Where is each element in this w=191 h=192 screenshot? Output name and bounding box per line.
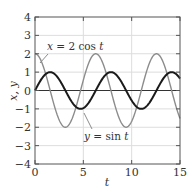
annotation-text: = 2 cos — [53, 40, 99, 52]
x-tick-label: 0 — [32, 166, 39, 179]
y-tick-label: −2 — [15, 121, 31, 134]
y-tick-label: 0 — [24, 85, 31, 98]
chart: 43210−1−2−3−4 051015 t x, y x = 2 cos t … — [0, 0, 191, 192]
y-tick-label: −3 — [15, 140, 31, 153]
leader-line — [84, 113, 92, 129]
svg-text:y = sin t: y = sin t — [83, 130, 129, 142]
annotation-x-cos: x = 2 cos t — [40, 40, 104, 63]
x-tick-labels: 051015 — [32, 166, 188, 179]
y-tick-label: −1 — [15, 103, 31, 116]
y-tick-label: −4 — [15, 158, 31, 171]
svg-text:x = 2 cos t: x = 2 cos t — [47, 40, 104, 52]
y-tick-label: 3 — [24, 29, 31, 42]
y-tick-label: 1 — [24, 66, 31, 79]
x-tick-label: 10 — [125, 166, 139, 179]
x-axis-label: t — [105, 176, 110, 189]
y-tick-label: 4 — [24, 11, 31, 24]
x-tick-label: 15 — [173, 166, 187, 179]
annotation-text: = sin — [90, 130, 124, 142]
annotation-var: t — [124, 130, 129, 142]
leader-line — [40, 54, 48, 63]
annotation-var: t — [99, 40, 104, 52]
y-tick-label: 2 — [24, 48, 31, 61]
y-axis-label: x, y — [7, 81, 20, 101]
x-tick-label: 5 — [80, 166, 87, 179]
